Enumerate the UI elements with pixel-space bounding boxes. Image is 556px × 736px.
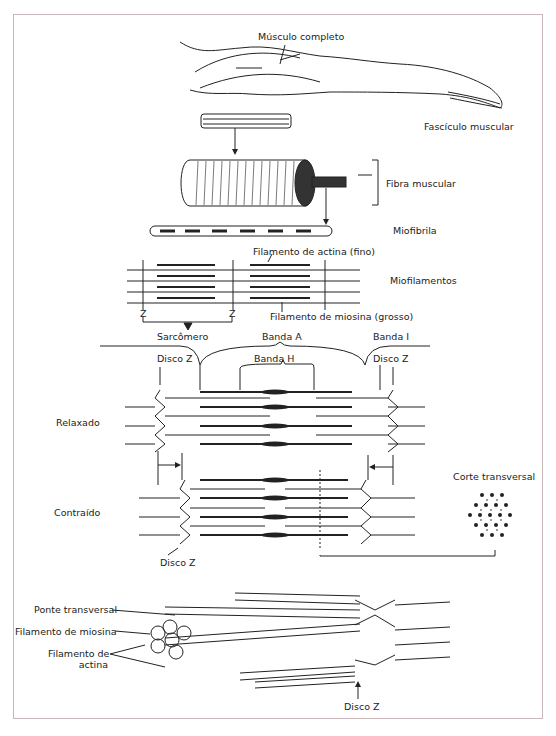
label-relaxed: Relaxado (56, 417, 100, 428)
label-band-h: Banda H (254, 353, 294, 364)
whole-muscle-drawing (180, 42, 502, 108)
myofilaments-drawing (127, 254, 360, 312)
label-myofilaments: Miofilamentos (390, 275, 457, 286)
label-sarcomere: Sarcômero (157, 331, 208, 342)
label-disc-z-bottom: Disco Z (160, 557, 195, 568)
myofibril-drawing (150, 226, 332, 236)
label-disc-z-right: Disco Z (373, 353, 408, 364)
label-disc-z-left: Disco Z (157, 353, 192, 364)
sarcomere-bracket (143, 316, 232, 322)
label-cross-section: Corte transversal (453, 471, 535, 482)
contracted-sarcomere (139, 470, 495, 556)
label-band-a: Banda A (262, 331, 302, 342)
label-contracted: Contraído (54, 507, 100, 518)
label-fascicle: Fascículo muscular (424, 121, 514, 132)
cross-section-drawing (468, 493, 512, 537)
label-myosin-filament: Filamento de miosina (15, 626, 117, 637)
label-whole-muscle: Músculo completo (258, 31, 344, 42)
label-muscle-fiber: Fibra muscular (386, 178, 456, 189)
label-z-right: Z (229, 308, 236, 319)
muscle-fiber-drawing (181, 160, 378, 222)
fascicle-drawing (201, 114, 291, 152)
label-myofibril: Miofibrila (393, 225, 437, 236)
label-z-left: Z (140, 308, 147, 319)
band-h-bracket (240, 360, 314, 390)
filament-detail-drawing (110, 593, 450, 699)
label-actin-filament-line2: actina (48, 659, 108, 670)
label-actin-filament-line1: Filamento de (48, 648, 108, 659)
label-cross-bridge: Ponte transversal (34, 604, 117, 615)
label-myosin-thick: Filamento de miosina (grosso) (270, 311, 413, 322)
label-band-i: Banda I (373, 331, 409, 342)
label-actin-thin: Filamento de actina (fino) (253, 246, 375, 257)
label-disc-z-detail: Disco Z (344, 701, 379, 712)
relaxed-sarcomere (125, 390, 425, 453)
